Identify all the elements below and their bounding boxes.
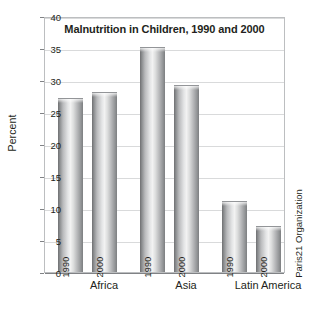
bar-label: 2000	[259, 257, 269, 278]
y-tick-mark-5	[40, 241, 44, 242]
bar-africa-2000: 2000	[92, 92, 117, 272]
gridline-0	[45, 273, 284, 274]
bar-asia-2000: 2000	[174, 85, 199, 272]
bar-latin-america-1990: 1990	[222, 201, 247, 272]
y-tick-label-40: 40	[27, 12, 61, 23]
x-category-label-latin-america: Latin America	[235, 279, 302, 291]
y-tick-mark-30	[40, 81, 44, 82]
y-tick-mark-40	[40, 17, 44, 18]
y-tick-label-30: 30	[27, 76, 61, 87]
x-category-label-africa: Africa	[90, 279, 118, 291]
chart-figure: Percent Paris21 Organization Malnutritio…	[0, 0, 312, 309]
bar-label: 1990	[61, 257, 71, 278]
bar-asia-1990: 1990	[140, 47, 165, 272]
chart-title: Malnutrition in Children, 1990 and 2000	[45, 23, 284, 35]
bar-africa-1990: 1990	[58, 98, 83, 272]
gridline-40	[45, 18, 284, 19]
y-tick-mark-0	[40, 273, 44, 274]
bar-latin-america-2000: 2000	[256, 226, 281, 272]
y-axis-title: Percent	[6, 95, 18, 171]
y-tick-label-5: 5	[27, 236, 61, 247]
plot-area: Malnutrition in Children, 1990 and 2000 …	[44, 17, 285, 273]
y-tick-label-0: 0	[27, 268, 61, 279]
y-tick-label-25: 25	[27, 108, 61, 119]
y-tick-mark-15	[40, 177, 44, 178]
bar-label: 2000	[95, 257, 105, 278]
y-tick-mark-10	[40, 209, 44, 210]
x-category-label-asia: Asia	[175, 279, 196, 291]
y-tick-label-15: 15	[27, 172, 61, 183]
y-tick-mark-35	[40, 49, 44, 50]
y-tick-mark-20	[40, 145, 44, 146]
y-tick-mark-25	[40, 113, 44, 114]
bar-label: 2000	[177, 257, 187, 278]
y-tick-label-10: 10	[27, 204, 61, 215]
bar-label: 1990	[225, 257, 235, 278]
y-tick-label-35: 35	[27, 44, 61, 55]
y-tick-label-20: 20	[27, 140, 61, 151]
bar-label: 1990	[143, 257, 153, 278]
